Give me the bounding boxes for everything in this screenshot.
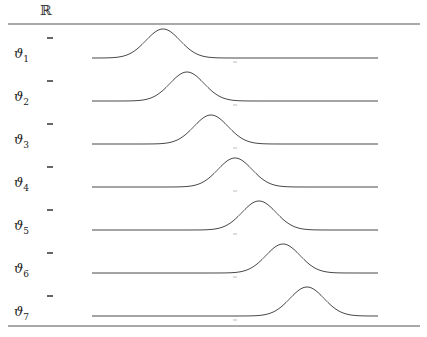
row-label-4: ϑ4 — [14, 175, 29, 193]
theta-symbol: ϑ — [14, 175, 23, 190]
gaussian-curve-3 — [92, 115, 378, 144]
gaussian-curve-1 — [92, 29, 378, 58]
row-index: 3 — [23, 140, 29, 150]
row-label-6: ϑ6 — [14, 261, 29, 279]
theta-symbol: ϑ — [14, 89, 23, 104]
theta-symbol: ϑ — [14, 46, 23, 61]
row-label-7: ϑ7 — [14, 304, 29, 322]
gaussian-curve-5 — [92, 201, 378, 230]
row-index: 6 — [23, 269, 29, 279]
row-label-2: ϑ2 — [14, 89, 29, 107]
theta-symbol: ϑ — [14, 261, 23, 276]
row-label-5: ϑ5 — [14, 218, 29, 236]
gaussian-curve-7 — [92, 287, 378, 316]
theta-symbol: ϑ — [14, 218, 23, 233]
theta-symbol: ϑ — [14, 132, 23, 147]
row-label-3: ϑ3 — [14, 132, 29, 150]
gaussian-curve-2 — [92, 72, 378, 101]
row-index: 1 — [23, 54, 29, 64]
gaussian-curve-6 — [92, 244, 378, 273]
row-index: 4 — [23, 183, 29, 193]
row-index: 5 — [23, 226, 29, 236]
row-label-1: ϑ1 — [14, 46, 29, 64]
theta-symbol: ϑ — [14, 304, 23, 319]
gaussian-curve-4 — [92, 158, 378, 187]
row-index: 2 — [23, 97, 29, 107]
gaussian-shift-diagram — [0, 0, 427, 337]
row-index: 7 — [23, 312, 29, 322]
